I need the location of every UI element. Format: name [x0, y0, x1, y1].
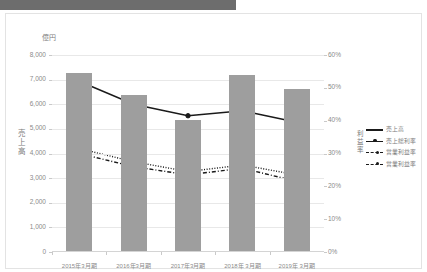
header-band	[0, 0, 236, 10]
bar	[175, 120, 201, 252]
legend-swatch-icon	[366, 126, 383, 133]
bar	[229, 75, 255, 252]
bar	[66, 73, 92, 252]
bar	[121, 95, 147, 252]
x-tick-label: 2015年3月期	[51, 263, 107, 269]
y-tick-mark-right	[324, 55, 327, 56]
legend-item[interactable]: 売上総利率	[366, 138, 427, 145]
y-tick-mark-right	[324, 186, 327, 187]
y-tick-mark-right	[324, 219, 327, 220]
y-tick-label-left: 6,000	[12, 101, 46, 108]
data-point-marker	[186, 114, 190, 118]
legend-label: 営業利益率	[386, 149, 416, 156]
y-tick-label-left: 5,000	[12, 125, 46, 132]
y-tick-label-left: 8,000	[12, 52, 46, 59]
legend-swatch-icon	[366, 149, 383, 156]
gridline	[52, 55, 324, 56]
axis-title-char: 利	[356, 130, 365, 138]
plot-area	[52, 55, 324, 252]
x-tick-label: 2017年3月期	[160, 263, 216, 269]
x-tick-label: 2019年 3月期	[269, 263, 325, 269]
y-tick-label-right: 40%	[328, 117, 362, 124]
y-tick-mark-right	[324, 154, 327, 155]
x-tick-label: 2016年3月期	[106, 263, 162, 269]
chart-page: 億円 売上高 利益率 8,0007,0006,0005,0004,0003,00…	[0, 0, 427, 272]
y-tick-label-left: 2,000	[12, 199, 46, 206]
unit-label: 億円	[42, 32, 56, 42]
x-tick-mark	[270, 252, 271, 255]
bar	[284, 89, 310, 252]
x-tick-label: 2018年 3月期	[214, 263, 270, 269]
y-tick-label-left: 7,000	[12, 76, 46, 83]
y-tick-label-left: 1,000	[12, 224, 46, 231]
chart-frame: 億円 売上高 利益率 8,0007,0006,0005,0004,0003,00…	[5, 13, 422, 269]
y-tick-mark-right	[324, 252, 327, 253]
legend-swatch-icon	[366, 138, 383, 145]
legend-item[interactable]: 売上高	[366, 126, 427, 133]
y-tick-mark-right	[324, 88, 327, 89]
legend-swatch-icon	[366, 161, 383, 168]
x-tick-mark	[161, 252, 162, 255]
y-tick-label-right: 30%	[328, 150, 362, 157]
y-tick-label-left: 4,000	[12, 150, 46, 157]
y-tick-label-right: 10%	[328, 216, 362, 223]
legend-label: 営業利益率	[386, 161, 416, 168]
y-tick-mark-right	[324, 121, 327, 122]
chart-legend: 売上高売上総利率営業利益率営業利益率	[366, 126, 427, 172]
y-tick-label-right: 0%	[328, 249, 362, 256]
y-tick-label-right: 20%	[328, 183, 362, 190]
legend-label: 売上総利率	[386, 138, 416, 145]
x-tick-mark	[106, 252, 107, 255]
x-tick-mark	[215, 252, 216, 255]
y-tick-label-right: 60%	[328, 52, 362, 59]
legend-item[interactable]: 営業利益率	[366, 161, 427, 168]
legend-item[interactable]: 営業利益率	[366, 149, 427, 156]
x-tick-mark	[52, 252, 53, 255]
y-tick-label-left: 0	[12, 249, 46, 256]
axis-title-char: 上	[16, 138, 26, 147]
y-tick-label-right: 50%	[328, 84, 362, 91]
x-axis-line	[52, 251, 324, 252]
legend-label: 売上高	[386, 126, 404, 133]
y-tick-label-left: 3,000	[12, 175, 46, 182]
gridline	[52, 80, 324, 81]
axis-title-char: 益	[356, 138, 365, 146]
